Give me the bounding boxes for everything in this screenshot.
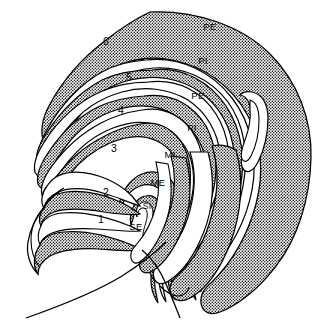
label-4: 4 <box>118 104 124 116</box>
label-5: 5 <box>126 71 132 83</box>
label-pe-outer: PE <box>203 21 216 32</box>
label-6: 6 <box>103 35 109 47</box>
label-pi-outer: PI <box>198 55 208 66</box>
label-se: SE <box>129 221 142 232</box>
label-pe-inner: PE <box>191 90 204 101</box>
diagram-canvas: PE PI 6 5 PE 4 PI 3 MI ME 2 SI 1 SE <box>0 0 326 326</box>
label-2: 2 <box>103 186 109 198</box>
label-3: 3 <box>111 142 117 154</box>
label-mi: MI <box>164 149 175 160</box>
anatomical-figure: PE PI 6 5 PE 4 PI 3 MI ME 2 SI 1 SE <box>0 0 326 326</box>
label-me: ME <box>151 177 166 188</box>
label-si: SI <box>143 201 152 211</box>
label-1: 1 <box>98 213 104 225</box>
label-pi-inner: PI <box>187 122 197 133</box>
